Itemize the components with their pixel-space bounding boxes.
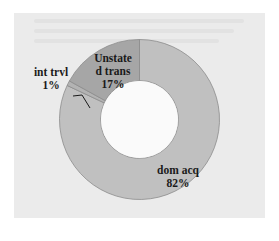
label-int-trvl-pct: 1% <box>27 79 75 92</box>
label-dom-acq: dom acq 82% <box>148 164 208 190</box>
donut-chart <box>0 0 279 241</box>
label-unstated-line1: Unstate <box>83 52 143 65</box>
donut-hole <box>101 81 178 158</box>
label-int-trvl-name: int trvl <box>27 66 75 79</box>
label-dom-acq-name: dom acq <box>148 164 208 177</box>
label-int-trvl: int trvl 1% <box>27 66 75 92</box>
label-unstated-line2: d trans <box>83 65 143 78</box>
label-unstated-pct: 17% <box>83 78 143 91</box>
label-unstated-trans: Unstate d trans 17% <box>83 52 143 91</box>
label-dom-acq-pct: 82% <box>148 177 208 190</box>
